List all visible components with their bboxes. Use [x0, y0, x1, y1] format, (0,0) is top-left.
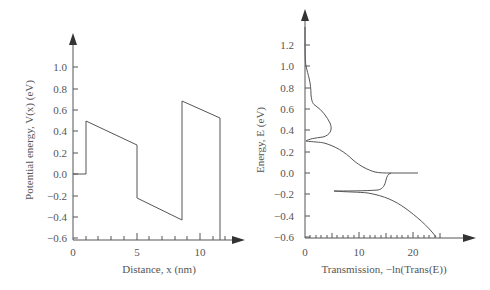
svg-text:0.6: 0.6	[53, 104, 67, 116]
svg-text:5: 5	[134, 246, 140, 258]
right-x-axis-arrow-icon	[463, 234, 476, 242]
svg-text:10: 10	[195, 246, 207, 258]
svg-text:−0.2: −0.2	[274, 188, 294, 200]
svg-text:−0.4: −0.4	[274, 210, 294, 222]
svg-text:0.6: 0.6	[280, 103, 294, 115]
svg-text:−0.6: −0.6	[274, 231, 294, 243]
right-y-label: Energy, E (eV)	[254, 107, 267, 173]
svg-text:0.8: 0.8	[280, 82, 294, 94]
svg-text:0.4: 0.4	[53, 125, 67, 137]
left-plot: −0.6 −0.4 −0.2 0.0 0.2 0.4 0.6 0.8 1.0	[23, 33, 245, 276]
svg-text:10: 10	[354, 246, 366, 258]
left-y-axis-arrow-icon	[69, 33, 77, 45]
svg-text:1.0: 1.0	[280, 60, 294, 72]
svg-text:−0.2: −0.2	[47, 190, 67, 202]
svg-text:0: 0	[70, 246, 76, 258]
svg-text:0.2: 0.2	[53, 147, 67, 159]
left-x-tick-labels: 0 5 10	[70, 246, 206, 258]
right-x-tick-labels: 0 10 20	[302, 246, 419, 258]
svg-text:0.0: 0.0	[280, 167, 294, 179]
left-y-label: Potential energy, V(x) (eV)	[23, 80, 36, 200]
svg-text:1.2: 1.2	[280, 39, 294, 51]
svg-text:−0.6: −0.6	[47, 232, 67, 244]
svg-text:−0.4: −0.4	[47, 211, 67, 223]
svg-text:0: 0	[302, 246, 308, 258]
svg-text:0.2: 0.2	[280, 146, 294, 158]
right-y-tick-labels: −0.6 −0.4 −0.2 0.0 0.2 0.4 0.6 0.8 1.0 1…	[274, 39, 294, 243]
right-y-axis-arrow-icon	[301, 9, 309, 21]
svg-text:0.4: 0.4	[280, 124, 294, 136]
right-plot: −0.6 −0.4 −0.2 0.0 0.2 0.4 0.6 0.8 1.0 1…	[254, 9, 476, 276]
left-x-axis-arrow-icon	[232, 236, 245, 244]
transmission-curve-lower	[334, 173, 436, 237]
figure: −0.6 −0.4 −0.2 0.0 0.2 0.4 0.6 0.8 1.0	[0, 0, 490, 290]
left-y-ticks	[73, 67, 78, 238]
left-x-ticks	[86, 233, 225, 240]
svg-text:20: 20	[408, 246, 420, 258]
svg-text:1.0: 1.0	[53, 61, 67, 73]
potential-curve	[73, 101, 220, 240]
right-x-label: Transmission, −ln(Trans(E))	[321, 263, 447, 276]
svg-text:0.8: 0.8	[53, 83, 67, 95]
right-x-ticks	[310, 232, 440, 238]
svg-text:0.0: 0.0	[53, 168, 67, 180]
transmission-curve-upper	[305, 27, 418, 173]
left-y-tick-labels: −0.6 −0.4 −0.2 0.0 0.2 0.4 0.6 0.8 1.0	[47, 61, 67, 244]
left-x-label: Distance, x (nm)	[122, 263, 196, 276]
